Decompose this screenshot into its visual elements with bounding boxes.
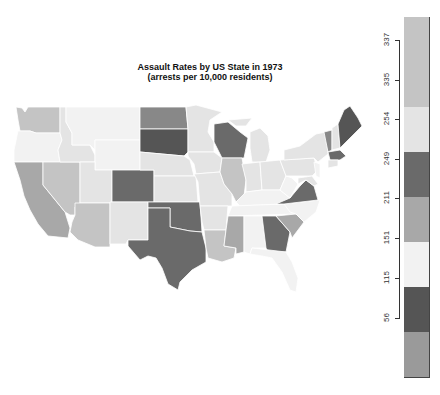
tick-label: 254 <box>382 107 391 131</box>
state-maine[interactable] <box>338 106 362 148</box>
state-arizona[interactable] <box>70 203 110 247</box>
tick-label: 56 <box>382 306 391 330</box>
us-map <box>0 0 440 395</box>
state-kansas[interactable] <box>154 176 198 202</box>
tick-mark <box>395 238 400 239</box>
tick-label: 115 <box>382 266 391 290</box>
tick-mark <box>395 119 400 120</box>
state-new-mexico[interactable] <box>110 202 148 244</box>
state-colorado[interactable] <box>112 170 154 202</box>
tick-mark <box>395 278 400 279</box>
tick-mark <box>395 198 400 199</box>
colorbar-axis <box>399 40 400 318</box>
tick-label: 249 <box>382 147 391 171</box>
tick-mark <box>395 318 400 319</box>
state-new-jersey[interactable] <box>314 162 320 178</box>
state-wisconsin[interactable] <box>214 122 248 158</box>
state-south-dakota[interactable] <box>140 129 188 156</box>
tick-mark <box>395 40 400 41</box>
state-massachusetts[interactable] <box>328 150 346 160</box>
colorbar-frame <box>404 17 430 378</box>
state-wyoming[interactable] <box>95 140 140 170</box>
tick-label: 337 <box>382 28 391 52</box>
state-pennsylvania[interactable] <box>280 158 318 176</box>
state-washington[interactable] <box>16 107 60 133</box>
state-oregon[interactable] <box>14 131 62 162</box>
state-north-dakota[interactable] <box>140 107 188 129</box>
state-connecticut[interactable] <box>328 160 338 168</box>
tick-label: 211 <box>382 186 391 210</box>
state-iowa[interactable] <box>188 152 222 174</box>
tick-label: 151 <box>382 226 391 250</box>
state-new-york[interactable] <box>284 132 328 162</box>
state-arkansas[interactable] <box>200 206 228 230</box>
tick-label: 335 <box>382 68 391 92</box>
state-florida[interactable] <box>250 248 298 292</box>
tick-mark <box>395 80 400 81</box>
tick-mark <box>395 159 400 160</box>
